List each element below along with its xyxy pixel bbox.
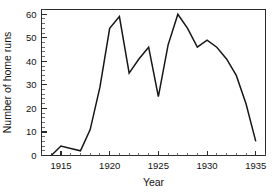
data-series-line bbox=[51, 14, 256, 155]
x-tick-label: 1920 bbox=[99, 160, 120, 171]
y-tick-label: 20 bbox=[26, 103, 37, 114]
x-tick-label: 1930 bbox=[196, 160, 217, 171]
y-tick-label: 50 bbox=[26, 32, 37, 43]
y-tick-label: 0 bbox=[31, 150, 36, 161]
y-axis-title: Number of home runs bbox=[1, 32, 13, 134]
y-tick-label: 40 bbox=[26, 56, 37, 67]
plot-frame bbox=[42, 10, 266, 156]
y-tick-label: 10 bbox=[26, 126, 37, 137]
y-tick-label: 30 bbox=[26, 79, 37, 90]
y-tick-label: 60 bbox=[26, 9, 37, 20]
x-tick-label: 1935 bbox=[245, 160, 266, 171]
line-chart-figure: 191519201925193019350102030405060YearNum… bbox=[0, 0, 274, 192]
chart-canvas: 191519201925193019350102030405060YearNum… bbox=[0, 0, 274, 192]
x-tick-label: 1925 bbox=[148, 160, 169, 171]
x-tick-label: 1915 bbox=[50, 160, 71, 171]
x-axis-title: Year bbox=[143, 176, 165, 188]
